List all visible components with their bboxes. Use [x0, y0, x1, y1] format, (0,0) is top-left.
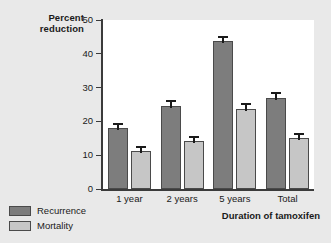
y-axis-tick [96, 20, 101, 21]
error-bar-cap [294, 133, 304, 135]
y-axis-tick-label: 10 [69, 149, 93, 160]
bar [184, 141, 204, 189]
error-bar-cap [113, 123, 123, 125]
chart-figure: Percent reduction 01020304050 1 year2 ye… [0, 0, 331, 243]
y-axis-tick [96, 189, 101, 190]
y-axis-tick-label: 40 [69, 48, 93, 59]
y-axis-tick-label: 50 [69, 14, 93, 25]
bar [266, 98, 286, 189]
bar [289, 138, 309, 189]
bar [131, 151, 151, 189]
chart-legend: RecurrenceMortality [9, 203, 86, 233]
y-axis-tick [96, 87, 101, 88]
x-axis-line [101, 189, 314, 191]
x-axis-tick-label: Total [248, 193, 328, 204]
error-bar-cap [166, 100, 176, 102]
y-axis-tick-label: 30 [69, 82, 93, 93]
y-axis-tick [96, 121, 101, 122]
bar [213, 41, 233, 189]
legend-label: Recurrence [37, 205, 86, 216]
error-bar-cap [271, 92, 281, 94]
y-axis-tick [96, 155, 101, 156]
legend-swatch [9, 206, 31, 216]
y-axis-line [101, 19, 103, 190]
bar [108, 128, 128, 189]
y-axis-tick-label: 20 [69, 115, 93, 126]
y-axis-tick [96, 53, 101, 54]
legend-label: Mortality [37, 220, 73, 231]
legend-item: Mortality [9, 218, 86, 233]
error-bar-cap [136, 146, 146, 148]
error-bar-cap [241, 103, 251, 105]
error-bar-cap [189, 136, 199, 138]
bar [161, 106, 181, 189]
bar [236, 109, 256, 189]
x-axis-title: Duration of tamoxifen [222, 210, 320, 221]
legend-item: Recurrence [9, 203, 86, 218]
error-bar-cap [218, 36, 228, 38]
legend-swatch [9, 221, 31, 231]
